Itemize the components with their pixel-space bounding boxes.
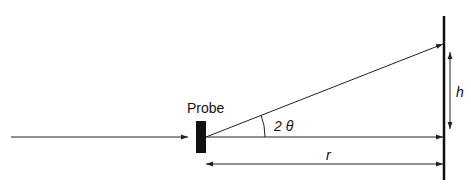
- diffraction-geometry-diagram: [0, 0, 471, 190]
- angle-arc: [261, 115, 265, 137]
- diffracted-beam-arrow: [206, 44, 443, 137]
- angle-label: 2 θ: [274, 119, 293, 133]
- probe-label: Probe: [187, 101, 224, 115]
- probe-block: [196, 121, 206, 153]
- distance-label: r: [326, 148, 331, 162]
- height-label: h: [456, 85, 464, 99]
